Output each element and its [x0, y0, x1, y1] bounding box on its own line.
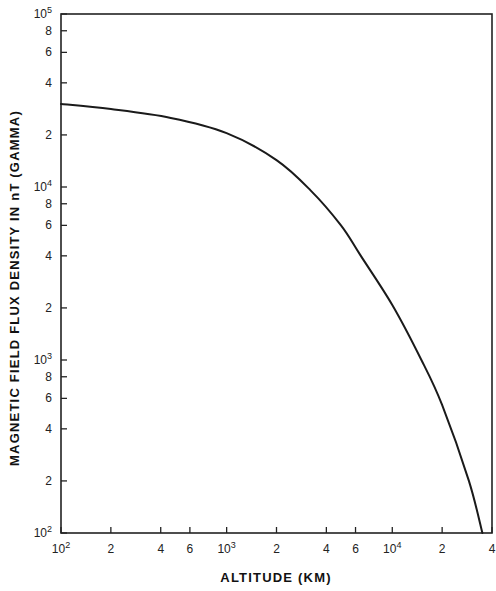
y-tick-label: 104	[34, 178, 52, 194]
y-axis-title: MAGNETIC FIELD FLUX DENSITY IN nT (GAMMA…	[7, 110, 22, 466]
y-axis-ticks: 102246810324681042468105	[34, 5, 67, 540]
x-tick-label: 2	[439, 542, 446, 556]
x-tick-label: 4	[157, 542, 164, 556]
x-tick-label: 103	[217, 540, 235, 556]
y-tick-label: 8	[45, 24, 52, 38]
x-axis-ticks: 10224610324610424	[52, 527, 496, 556]
x-tick-label: 6	[352, 542, 359, 556]
y-tick-label: 8	[45, 197, 52, 211]
y-tick-label: 6	[45, 218, 52, 232]
y-tick-label: 4	[45, 249, 52, 263]
y-tick-label: 8	[45, 370, 52, 384]
x-tick-label: 104	[383, 540, 401, 556]
y-tick-label: 103	[34, 351, 52, 367]
x-tick-label: 102	[52, 540, 70, 556]
y-tick-label: 4	[45, 76, 52, 90]
y-tick-label: 6	[45, 391, 52, 405]
x-tick-label: 2	[108, 542, 115, 556]
y-tick-label: 6	[45, 45, 52, 59]
x-tick-label: 2	[273, 542, 280, 556]
y-tick-label: 105	[34, 5, 52, 21]
x-axis-title: ALTITUDE (KM)	[220, 570, 331, 585]
chart: 10224610324610424 1022468103246810424681…	[0, 0, 496, 591]
y-tick-label: 2	[45, 128, 52, 142]
data-curve	[61, 104, 482, 533]
y-tick-label: 2	[45, 474, 52, 488]
x-tick-label: 4	[323, 542, 330, 556]
plot-frame	[61, 14, 492, 533]
y-tick-label: 102	[34, 524, 52, 540]
y-tick-label: 4	[45, 422, 52, 436]
y-tick-label: 2	[45, 301, 52, 315]
x-tick-label: 6	[187, 542, 194, 556]
x-tick-label: 4	[489, 542, 496, 556]
